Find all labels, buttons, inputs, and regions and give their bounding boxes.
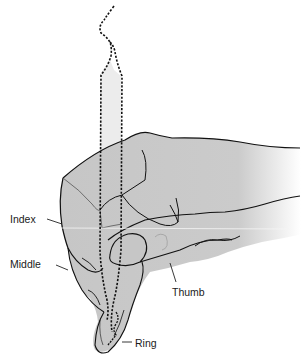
label-thumb: Thumb [172, 287, 205, 298]
label-index: Index [10, 214, 36, 225]
hand-shape [60, 132, 308, 353]
hand-pencil-illustration [0, 0, 308, 363]
label-ring: Ring [135, 338, 157, 349]
label-middle: Middle [10, 259, 41, 270]
